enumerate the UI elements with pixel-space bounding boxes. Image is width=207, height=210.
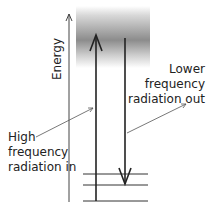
label-line: frequency <box>8 145 88 160</box>
energy-levels <box>83 174 148 201</box>
label-line: radiation out <box>118 92 205 107</box>
label-line: frequency <box>118 77 205 92</box>
energy-level-diagram: Energy Lower frequency radiation out Hig… <box>0 0 207 210</box>
high-frequency-label: High frequency radiation in <box>8 130 88 175</box>
label-line: Lower <box>118 62 205 77</box>
label-line: radiation in <box>8 160 88 175</box>
lower-frequency-label: Lower frequency radiation out <box>118 62 205 107</box>
axis-label-energy: Energy <box>50 38 64 80</box>
label-line: High <box>8 130 88 145</box>
excited-state-band <box>76 6 150 68</box>
